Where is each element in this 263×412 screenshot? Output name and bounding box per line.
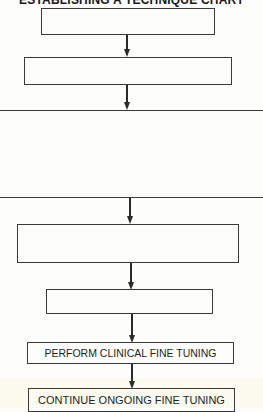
flow-box-label: PERFORM CLINICAL FINE TUNING	[44, 347, 216, 359]
flow-box-label: CONTINUE ONGOING FINE TUNING	[38, 394, 225, 406]
flow-box-step-4	[46, 289, 213, 314]
section-bottom-line	[0, 197, 263, 198]
flow-box-step-1	[41, 8, 215, 35]
diagram-title: ESTABLISHING A TECHNIQUE CHART	[0, 0, 263, 7]
flow-box-continue-ongoing-fine-tuning: CONTINUE ONGOING FINE TUNING	[28, 388, 235, 412]
flow-box-step-2	[24, 57, 232, 85]
section-block	[0, 111, 263, 197]
flow-box-perform-clinical-fine-tuning: PERFORM CLINICAL FINE TUNING	[27, 342, 234, 364]
flow-box-step-3	[17, 224, 239, 263]
